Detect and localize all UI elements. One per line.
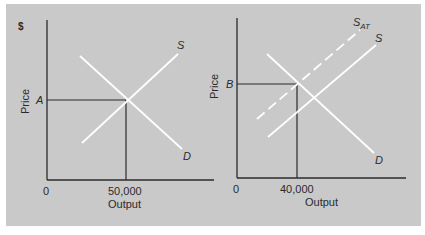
diagram-graphics <box>0 0 425 235</box>
left-y-axis-label: Price <box>20 89 31 114</box>
right-qty-tick: 40,000 <box>280 184 314 195</box>
right-supply-after-tax-label: SAT <box>353 17 370 28</box>
left-dollar-label: $ <box>18 22 24 32</box>
right-supply-after-tax-curve <box>257 30 360 119</box>
right-demand-curve <box>267 54 374 153</box>
right-price-mark: B <box>226 79 233 90</box>
left-demand-label: D <box>183 151 191 162</box>
right-origin-label: 0 <box>233 184 239 195</box>
right-supply-curve <box>268 45 376 137</box>
left-supply-label: S <box>177 40 184 51</box>
right-supply-label: S <box>375 33 382 44</box>
left-supply-curve <box>82 54 178 143</box>
right-supply-after-tax-subscript: AT <box>360 22 370 31</box>
left-qty-tick: 50,000 <box>108 186 142 197</box>
left-origin-label: 0 <box>43 186 49 197</box>
left-price-mark: A <box>36 95 43 106</box>
left-x-axis-label: Output <box>108 199 141 210</box>
right-x-axis-label: Output <box>305 197 338 208</box>
right-demand-label: D <box>375 155 383 166</box>
left-demand-curve <box>80 56 182 149</box>
right-y-axis-label: Price <box>209 74 220 99</box>
